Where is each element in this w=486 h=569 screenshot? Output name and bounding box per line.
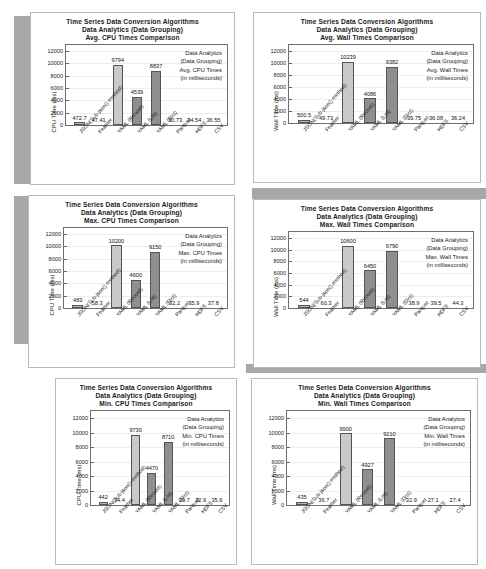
y-tick-label: 8000 (76, 444, 91, 450)
legend-line: (in milliseconds) (426, 74, 468, 82)
x-axis-labels: JSON(Sub-json() method)FeatherYAML (Reco… (63, 309, 228, 367)
legend-line: Data Analytics (426, 236, 468, 244)
plot-area-avg-cpu: CPU Time (ms)020004000600080001000012000… (31, 40, 234, 184)
chart-frame-min-cpu: Time Series Data Conversion AlgorithmsDa… (55, 378, 237, 565)
legend-line: Data Analytics (426, 49, 468, 57)
x-label-slot: Feather (312, 506, 334, 564)
chart-panel-max-wall: Time Series Data Conversion AlgorithmsDa… (243, 189, 486, 372)
x-label-slot: JSON(Sub-json() method) (67, 309, 87, 367)
y-tick-label: 10000 (268, 430, 287, 436)
title-line-1: Time Series Data Conversion Algorithms (56, 384, 236, 392)
y-tick-label: 12000 (72, 415, 91, 421)
bar-value-label: 500.5 (297, 113, 311, 119)
legend-line: (in milliseconds) (426, 261, 468, 269)
y-tick-label: 4000 (272, 473, 287, 479)
legend-line: Data Analytics (180, 49, 222, 57)
y-tick-label: 8000 (272, 444, 287, 450)
x-label-slot: YAML (Dict) (381, 309, 403, 367)
x-label-slot: YAML (Dict) (147, 126, 166, 184)
chart-panel-avg-wall: Time Series Data Conversion AlgorithmsDa… (243, 0, 486, 189)
bar-slot: 32.9 (400, 411, 422, 505)
x-label-slot: YAML (Dict) (379, 506, 401, 564)
bar-value-label: 37.8 (208, 301, 219, 307)
plot-box: 02000400060008000100001200043536.7990049… (286, 410, 471, 506)
title-line-2: Data Analytics (Data Grouping) (31, 26, 234, 34)
y-tick-label: 10000 (270, 247, 289, 253)
legend: Data Analytics(Data Grouping)Avg. Wall T… (426, 49, 468, 83)
x-label-slot: Feather (111, 506, 128, 564)
bar-slot: 9900 (335, 411, 357, 505)
y-tick-label: 10000 (270, 60, 289, 66)
legend-line: Min. Wall Times (423, 432, 465, 440)
x-label-slot: YAML (Record) (334, 506, 356, 564)
bar-value-label: 4470 (146, 466, 158, 472)
bar-value-label: 9794 (112, 58, 124, 64)
x-label-slot: YAML (Record) (337, 124, 359, 182)
chart-frame-avg-cpu: Time Series Data Conversion AlgorithmsDa… (30, 12, 235, 185)
x-label-slot: Parquet (403, 309, 425, 367)
legend-line: (Data Grouping) (426, 57, 468, 65)
y-tick-label: 10000 (45, 243, 64, 249)
x-label-slot: JSON(Sub-json() method) (290, 506, 312, 564)
y-tick-label: 8000 (49, 256, 64, 262)
title-line-1: Time Series Data Conversion Algorithms (31, 18, 234, 26)
x-label-slot: JSON(Sub-json() method) (292, 124, 314, 182)
y-tick-label: 4000 (274, 282, 289, 288)
y-tick-label: 2000 (76, 488, 91, 494)
x-label-slot: YAML (Dict) (160, 506, 177, 564)
legend: Data Analytics(Data Grouping)Max. CPU Ti… (179, 232, 222, 266)
title-line-1: Time Series Data Conversion Algorithms (254, 18, 480, 26)
y-tick-label: 2000 (51, 110, 66, 116)
bar[interactable] (342, 62, 354, 123)
bar-slot: 472.7 (70, 45, 89, 125)
legend-line: (Data Grouping) (179, 240, 222, 248)
plot-box: 020004000600080001000012000472.747.41979… (65, 44, 228, 126)
legend-line: Avg. CPU Times (180, 66, 222, 74)
x-label-slot: CSV (205, 126, 224, 184)
legend-line: Avg. Wall Times (426, 66, 468, 74)
x-label-slot: Parquet (165, 309, 185, 367)
bar-value-label: 9790 (386, 244, 398, 250)
bar[interactable] (342, 246, 354, 308)
bar-value-label: 10200 (109, 239, 125, 245)
x-label-slot: Feather (314, 124, 336, 182)
figure-grid: Time Series Data Conversion AlgorithmsDa… (0, 0, 486, 569)
plot-area-max-wall: Wall Time (ms)02000400060008000100001200… (254, 227, 480, 367)
y-tick-label: 8000 (51, 73, 66, 79)
x-label-slot: YAML (Dict) (381, 124, 403, 182)
y-tick-label: 4000 (76, 473, 91, 479)
chart-frame-max-wall: Time Series Data Conversion AlgorithmsDa… (253, 199, 481, 368)
legend-line: (in milliseconds) (182, 440, 224, 448)
chart-title-avg-wall: Time Series Data Conversion AlgorithmsDa… (254, 13, 480, 42)
bar-value-label: 8710 (162, 435, 174, 441)
plot-area-max-cpu: CPU Time (ms)020004000600080001000012000… (29, 223, 234, 367)
x-label-slot: YAML (List) (359, 309, 381, 367)
y-axis-label: Wall Time (ms) (271, 465, 277, 505)
legend-line: Data Analytics (182, 415, 224, 423)
bar-value-label: 544 (299, 298, 308, 304)
x-label-slot: YAML (Record) (106, 309, 126, 367)
x-label-slot: YAML (Record) (108, 126, 127, 184)
x-label-slot: Parquet (177, 506, 194, 564)
x-label-slot: CSV (445, 506, 467, 564)
y-tick-label: 12000 (45, 231, 64, 237)
bar-value-label: 9150 (149, 245, 161, 251)
y-tick-label: 4000 (49, 280, 64, 286)
y-tick-label: 8000 (274, 72, 289, 78)
bar-value-label: 472.7 (73, 116, 87, 122)
x-axis-labels: JSON(Sub-json() method)FeatherYAML (Reco… (65, 126, 228, 184)
bar-value-label: 483 (73, 298, 82, 304)
x-label-slot: Feather (314, 309, 336, 367)
x-label-slot: YAML (Record) (337, 309, 359, 367)
chart-frame-avg-wall: Time Series Data Conversion AlgorithmsDa… (253, 12, 481, 183)
x-label-slot: YAML (List) (127, 126, 146, 184)
plot-box: 02000400060008000100001200044234.4973044… (90, 410, 230, 506)
x-label-slot: Parquet (166, 126, 185, 184)
x-label-slot: YAML (List) (359, 124, 381, 182)
y-tick-label: 12000 (268, 415, 287, 421)
title-line-1: Time Series Data Conversion Algorithms (252, 384, 477, 392)
y-tick-label: 6000 (51, 85, 66, 91)
bar-value-label: 4927 (361, 463, 373, 469)
y-axis-label: CPU Time (ms) (76, 465, 82, 506)
chart-title-max-cpu: Time Series Data Conversion AlgorithmsDa… (29, 196, 234, 225)
